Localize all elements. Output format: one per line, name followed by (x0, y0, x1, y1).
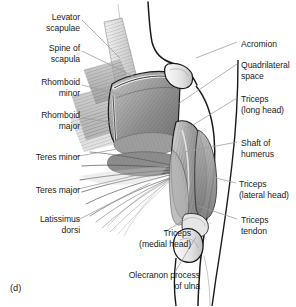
label-levator-scapulae: Levator scapulae (8, 12, 80, 33)
label-acromion: Acromion (241, 39, 296, 50)
label-quadrilateral-space: Quadrilateral space (241, 60, 296, 81)
label-triceps-medial-head: Triceps (medial head) (115, 228, 191, 249)
label-latissimus-dorsi: Latissimus dorsi (2, 214, 80, 235)
label-triceps-tendon: Triceps tendon (241, 215, 296, 236)
anatomy-figure-panel: Levator scapulaeSpine of scapulaRhomboid… (0, 0, 296, 307)
label-triceps-long-head: Triceps (long head) (241, 94, 296, 115)
label-teres-major: Teres major (2, 185, 80, 196)
figure-caption: (d) (10, 283, 21, 293)
label-shaft-of-humerus: Shaft of humerus (241, 138, 296, 159)
label-rhomboid-minor: Rhomboid minor (2, 77, 80, 98)
label-triceps-lateral-head: Triceps (lateral head) (239, 179, 296, 200)
label-rhomboid-major: Rhomboid major (2, 110, 80, 131)
label-olecranon-process-ulna: Olecranon process of ulna (88, 270, 200, 291)
label-teres-minor: Teres minor (2, 152, 80, 163)
label-spine-of-scapula: Spine of scapula (8, 43, 80, 64)
